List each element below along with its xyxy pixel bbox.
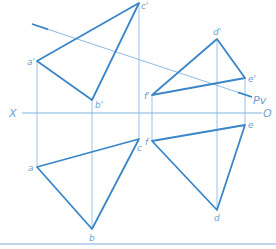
triangle-abc-front-view [37,3,139,100]
triangle-def-top-view [152,125,245,210]
axis-label-x: X [8,107,17,120]
label-e: e [248,120,254,130]
triangle-abc-top-view [37,139,139,229]
label-c-prime: c' [141,1,148,11]
label-d: d [214,213,220,223]
triangle-def-front-view [152,39,245,95]
label-b-prime: b' [95,100,103,110]
label-c: c [137,143,142,153]
trace-label-pv: Pv [253,94,267,107]
descriptive-geometry-diagram: X O Pv a' b' c' d' e' f' a b c d e f [0,0,276,249]
pv-trace-end-left [32,24,48,29]
label-a: a [28,163,34,173]
label-e-prime: e' [248,74,256,84]
label-f-prime: f' [144,91,150,101]
label-a-prime: a' [27,57,35,67]
label-d-prime: d' [213,27,221,37]
axis-label-o: O [263,107,272,120]
label-f: f [145,137,150,147]
label-b: b [89,233,95,243]
